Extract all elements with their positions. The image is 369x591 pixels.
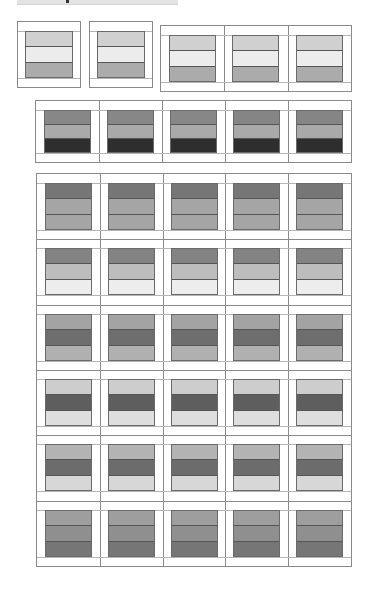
block-group-three-block-row	[160, 25, 352, 92]
fabric-strip-3	[108, 138, 153, 152]
fabric-strip-3	[46, 541, 91, 556]
fabric-strip-1	[46, 511, 91, 525]
fabric-strip-3	[297, 345, 342, 360]
fabric-strip-2	[297, 124, 342, 138]
quilt-block	[296, 110, 343, 153]
fabric-strip-1	[172, 511, 217, 525]
block-group-five-block-row	[35, 100, 352, 163]
quilt-block	[108, 183, 155, 230]
fabric-strip-1	[234, 445, 279, 459]
fabric-strip-2	[172, 263, 217, 278]
quilt-block	[45, 379, 92, 426]
fabric-strip-3	[109, 410, 154, 425]
fabric-strip-3	[297, 66, 342, 81]
quilt-block	[171, 248, 218, 295]
sashing-divider-horizontal	[37, 435, 351, 436]
fabric-strip-2	[171, 124, 216, 138]
fabric-strip-3	[109, 214, 154, 229]
quilt-block	[171, 444, 218, 491]
fabric-strip-2	[172, 394, 217, 409]
fabric-strip-3	[46, 475, 91, 490]
fabric-strip-1	[233, 36, 278, 50]
fabric-strip-3	[109, 345, 154, 360]
fabric-strip-1	[46, 380, 91, 394]
quilt-block	[233, 444, 280, 491]
quilt-block	[296, 379, 343, 426]
fabric-strip-1	[297, 184, 342, 198]
fabric-strip-2	[109, 263, 154, 278]
fabric-strip-1	[109, 315, 154, 329]
fabric-strip-3	[109, 541, 154, 556]
fabric-strip-1	[297, 249, 342, 263]
fabric-strip-1	[170, 36, 215, 50]
block-group-single-block-2	[89, 21, 153, 88]
sashing-edge-line	[36, 153, 351, 154]
fabric-strip-2	[297, 263, 342, 278]
quilt-block	[108, 379, 155, 426]
quilt-block	[170, 110, 217, 153]
fabric-strip-2	[46, 198, 91, 213]
fabric-strip-3	[172, 410, 217, 425]
quilt-block	[233, 379, 280, 426]
quilt-block	[169, 35, 216, 82]
sashing-edge-line	[90, 78, 152, 79]
quilt-block	[108, 248, 155, 295]
fabric-strip-1	[234, 315, 279, 329]
fabric-strip-2	[234, 263, 279, 278]
fabric-strip-3	[234, 214, 279, 229]
fabric-strip-1	[98, 32, 144, 46]
fabric-strip-2	[46, 329, 91, 344]
fabric-strip-3	[98, 62, 144, 77]
fabric-strip-2	[234, 124, 279, 138]
quilt-block	[45, 444, 92, 491]
fabric-strip-1	[297, 111, 342, 124]
sashing-edge-line	[18, 78, 80, 79]
fabric-strip-2	[46, 459, 91, 474]
fabric-strip-3	[297, 138, 342, 152]
quilt-block	[296, 314, 343, 361]
fabric-strip-2	[297, 329, 342, 344]
fabric-strip-2	[26, 46, 72, 61]
quilt-block	[45, 510, 92, 557]
fabric-strip-3	[46, 410, 91, 425]
fabric-strip-1	[109, 511, 154, 525]
fabric-strip-1	[172, 184, 217, 198]
fabric-strip-2	[297, 525, 342, 540]
fabric-strip-2	[297, 394, 342, 409]
fabric-strip-1	[46, 445, 91, 459]
fabric-strip-2	[109, 329, 154, 344]
quilt-block	[233, 314, 280, 361]
fabric-strip-3	[234, 475, 279, 490]
fabric-strip-2	[297, 198, 342, 213]
fabric-strip-1	[297, 315, 342, 329]
sashing-edge-line	[37, 426, 351, 427]
quilt-block	[108, 510, 155, 557]
quilt-block	[107, 110, 154, 153]
block-group-grid-5x6	[36, 173, 352, 567]
quilt-block	[45, 183, 92, 230]
fabric-strip-2	[98, 46, 144, 61]
fabric-strip-3	[234, 410, 279, 425]
fabric-strip-1	[109, 445, 154, 459]
fabric-strip-3	[26, 62, 72, 77]
sashing-edge-line	[37, 295, 351, 296]
fabric-strip-3	[234, 541, 279, 556]
fabric-strip-2	[172, 329, 217, 344]
fabric-strip-1	[109, 380, 154, 394]
quilt-block	[233, 510, 280, 557]
header-mark	[66, 0, 69, 3]
fabric-strip-2	[234, 329, 279, 344]
quilt-block	[233, 248, 280, 295]
quilt-block	[296, 183, 343, 230]
fabric-strip-1	[46, 315, 91, 329]
fabric-strip-2	[297, 459, 342, 474]
quilt-block	[97, 31, 145, 78]
fabric-strip-2	[108, 124, 153, 138]
sashing-edge-line	[37, 491, 351, 492]
quilt-block	[108, 314, 155, 361]
fabric-strip-1	[26, 32, 72, 46]
fabric-strip-2	[233, 50, 278, 65]
fabric-strip-3	[297, 541, 342, 556]
fabric-strip-2	[234, 525, 279, 540]
fabric-strip-2	[172, 525, 217, 540]
